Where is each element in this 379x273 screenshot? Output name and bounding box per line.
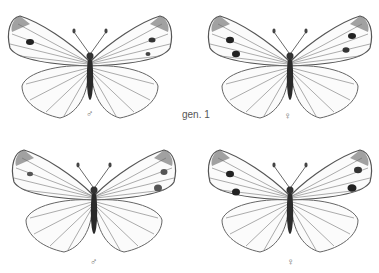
butterfly-bottom-left-male bbox=[4, 136, 184, 266]
butterfly-top-left-male bbox=[0, 2, 180, 122]
butterfly-bottom-right-female bbox=[200, 136, 379, 266]
sex-symbol-top-right: ♀ bbox=[284, 110, 292, 121]
butterfly-top-right-female bbox=[200, 2, 379, 122]
sex-symbol-bottom-right: ♀ bbox=[287, 256, 295, 267]
sex-symbol-top-left: ♂ bbox=[86, 108, 94, 119]
generation-label: gen. 1 bbox=[182, 109, 210, 120]
sex-symbol-bottom-left: ♂ bbox=[90, 256, 98, 267]
